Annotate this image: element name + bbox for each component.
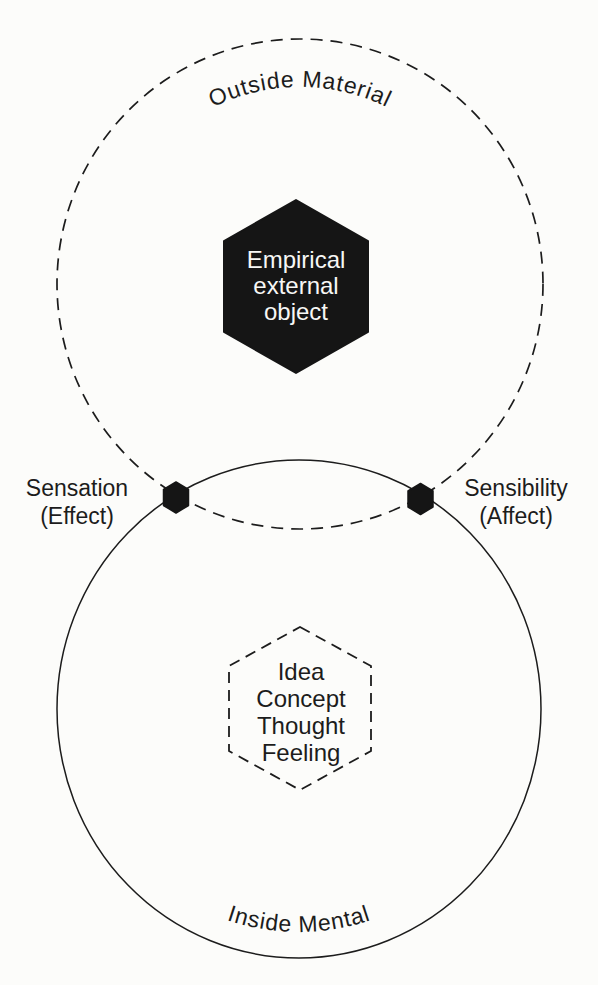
empirical-hexagon-line-3: object [196, 299, 396, 325]
diagram-canvas: Outside Material Inside Mental Empirical… [0, 0, 598, 985]
sensibility-junction-hexagon [408, 484, 433, 515]
mental-hexagon-line-1: Idea [201, 658, 401, 685]
outer-label-arc-path [129, 87, 470, 185]
sensation-label: Sensation (Effect) [0, 474, 154, 530]
sensation-label-line-1: Sensation [0, 474, 154, 502]
empirical-hexagon-label: Empirical external object [196, 247, 396, 325]
sensation-label-line-2: (Effect) [0, 502, 154, 530]
outer-circle-label: Outside Material [204, 66, 396, 112]
mental-hexagon-line-4: Feeling [201, 739, 401, 766]
empirical-hexagon-line-1: Empirical [196, 247, 396, 273]
sensibility-label: Sensibility (Affect) [436, 474, 596, 530]
inner-circle-curved-text: Inside Mental [225, 900, 373, 937]
mental-hexagon-label: Idea Concept Thought Feeling [201, 658, 401, 766]
sensation-junction-hexagon [164, 482, 189, 513]
mental-hexagon-line-3: Thought [201, 712, 401, 739]
sensibility-label-line-1: Sensibility [436, 474, 596, 502]
sensibility-label-line-2: (Affect) [436, 502, 596, 530]
empirical-hexagon-line-2: external [196, 273, 396, 299]
inner-circle-label: Inside Mental [225, 900, 373, 937]
mental-hexagon-line-2: Concept [201, 685, 401, 712]
outer-circle-curved-text: Outside Material [204, 66, 396, 112]
